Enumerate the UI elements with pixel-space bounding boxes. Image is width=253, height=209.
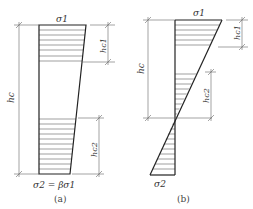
hc-label-b: hc xyxy=(136,63,146,74)
panel-a: σ1 σ2 = βσ1 hc hc1 hc2 (a) xyxy=(6,14,115,204)
hc-label-a: hc xyxy=(6,92,16,103)
stress-block-a xyxy=(39,25,86,174)
panel-b: σ1 σ2 hc hc1 hc2 (b) xyxy=(136,8,248,204)
hatch-bottom-a xyxy=(39,119,90,169)
hatch-top-b xyxy=(175,25,225,114)
hc2-label-b: hc2 xyxy=(202,88,211,103)
caption-a: (a) xyxy=(54,194,66,204)
hc2-label-a: hc2 xyxy=(90,142,99,157)
dim-hc-b xyxy=(143,17,212,121)
dim-hc2-a xyxy=(72,115,104,177)
sigma1-label-b: σ1 xyxy=(193,8,205,18)
hatch-bottom-b xyxy=(145,124,178,169)
stress-distribution-diagram: σ1 σ2 = βσ1 hc hc1 hc2 (a) xyxy=(0,0,253,209)
hc1-label-b: hc1 xyxy=(233,25,242,40)
sigma2-label-a: σ2 = βσ1 xyxy=(33,180,75,190)
dim-hc-a xyxy=(14,22,39,177)
hc1-label-a: hc1 xyxy=(99,38,108,53)
caption-b: (b) xyxy=(177,194,190,204)
sigma1-label-a: σ1 xyxy=(56,14,68,24)
sigma2-label-b: σ2 xyxy=(154,179,166,189)
